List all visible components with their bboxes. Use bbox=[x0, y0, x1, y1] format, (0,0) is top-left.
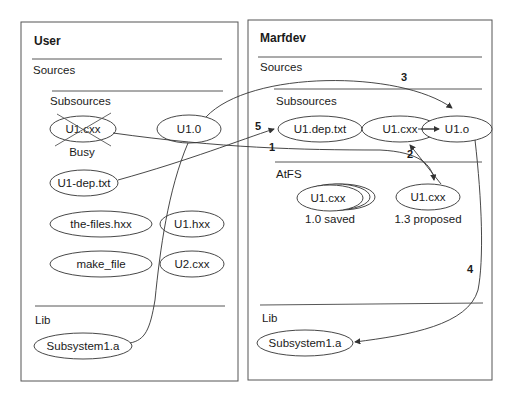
node-user-u1cxx[interactable]: U1.cxx bbox=[50, 113, 116, 146]
marfdev-panel: Marfdev Sources Subsources U1.dep.txt U1… bbox=[248, 20, 492, 380]
marfdev-sources-label: Sources bbox=[260, 61, 302, 73]
marfdev-lib-label: Lib bbox=[262, 312, 277, 324]
svg-text:U2.cxx: U2.cxx bbox=[174, 258, 209, 270]
node-user-u1dep[interactable]: U1-dep.txt bbox=[50, 170, 118, 196]
svg-text:U1.cxx: U1.cxx bbox=[382, 123, 417, 135]
node-user-makefile[interactable]: make_file bbox=[50, 251, 152, 277]
user-subsources-label: Subsources bbox=[50, 95, 111, 107]
edge-2-atfs-to-u1cxx bbox=[410, 145, 441, 184]
proposed-version-label: 1.3 proposed bbox=[394, 213, 461, 225]
node-marfdev-u1deptxt[interactable]: U1.dep.txt bbox=[278, 116, 362, 142]
svg-text:Subsystem1.a: Subsystem1.a bbox=[269, 337, 342, 349]
svg-text:the-files.hxx: the-files.hxx bbox=[70, 218, 132, 230]
saved-version-label: 1.0 saved bbox=[305, 213, 355, 225]
svg-text:Subsystem1.a: Subsystem1.a bbox=[47, 340, 120, 352]
svg-text:U1.o: U1.o bbox=[445, 123, 469, 135]
busy-status-label: Busy bbox=[69, 146, 95, 158]
svg-text:U1.cxx: U1.cxx bbox=[310, 192, 345, 204]
svg-text:U1.dep.txt: U1.dep.txt bbox=[294, 123, 347, 135]
edge-2-label: 2 bbox=[407, 148, 413, 160]
svg-text:make_file: make_file bbox=[76, 258, 125, 270]
user-sources-label: Sources bbox=[33, 64, 75, 76]
svg-text:U1-dep.txt: U1-dep.txt bbox=[57, 177, 111, 189]
marfdev-atfs-label: AtFS bbox=[276, 168, 302, 180]
node-marfdev-subsystem[interactable]: Subsystem1.a bbox=[257, 330, 353, 356]
edge-1-label: 1 bbox=[269, 141, 275, 153]
node-user-thefiles[interactable]: the-files.hxx bbox=[50, 211, 152, 237]
node-atfs-u1cxx-proposed[interactable]: U1.cxx bbox=[396, 184, 460, 210]
user-panel: User Sources Subsources U1.cxx Busy U1.0… bbox=[21, 22, 238, 381]
edge-5-label: 5 bbox=[255, 120, 261, 132]
node-user-subsystem[interactable]: Subsystem1.a bbox=[34, 333, 132, 359]
edge-4-u1o-to-subsystem bbox=[355, 140, 482, 342]
marfdev-panel-title: Marfdev bbox=[260, 31, 306, 45]
user-lib-label: Lib bbox=[35, 314, 50, 326]
node-user-u2cxx[interactable]: U2.cxx bbox=[160, 251, 224, 277]
edge-4-label: 4 bbox=[467, 263, 474, 275]
node-user-u10[interactable]: U1.0 bbox=[157, 115, 221, 143]
svg-text:U1.0: U1.0 bbox=[177, 123, 201, 135]
svg-text:U1.cxx: U1.cxx bbox=[410, 191, 445, 203]
configuration-diagram: User Sources Subsources U1.cxx Busy U1.0… bbox=[0, 0, 516, 398]
node-atfs-u1cxx-saved[interactable]: U1.cxx bbox=[297, 184, 375, 211]
marfdev-subsources-label: Subsources bbox=[276, 95, 337, 107]
edge-3-label: 3 bbox=[401, 71, 407, 83]
node-user-u1hxx[interactable]: U1.hxx bbox=[160, 211, 224, 237]
divider bbox=[260, 303, 483, 305]
edge-u10-to-subsystem bbox=[130, 143, 188, 343]
user-panel-title: User bbox=[34, 34, 61, 48]
svg-text:U1.hxx: U1.hxx bbox=[174, 218, 210, 230]
